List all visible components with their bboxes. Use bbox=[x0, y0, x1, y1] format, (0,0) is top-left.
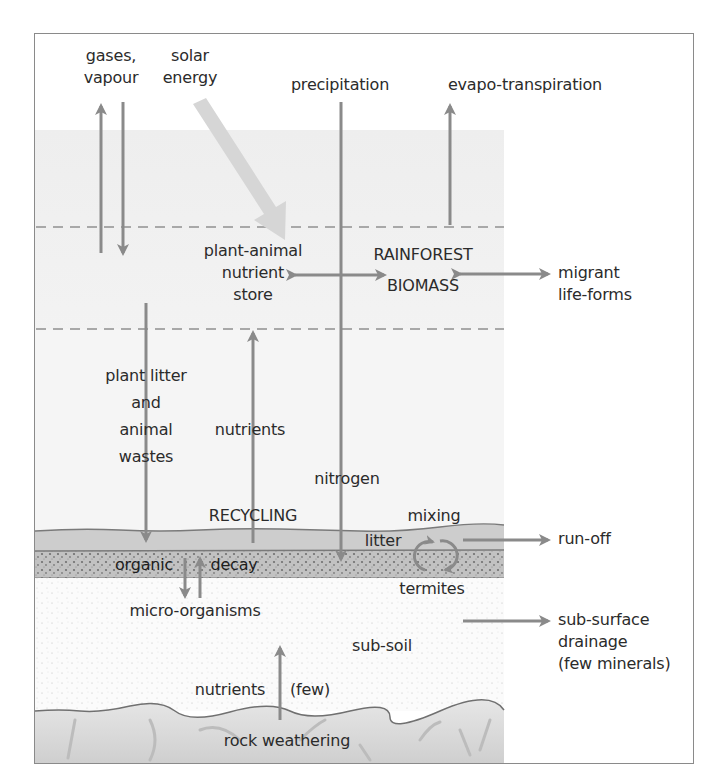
label-few: (few) bbox=[290, 679, 330, 701]
label-plant-animal-store: plant-animal nutrient store bbox=[204, 240, 302, 306]
label-evapotranspiration: evapo-transpiration bbox=[448, 74, 602, 96]
label-litter: litter bbox=[365, 530, 402, 552]
label-organic: organic bbox=[115, 554, 173, 576]
label-migrant-life-forms: migrant life-forms bbox=[558, 262, 632, 306]
label-nitrogen: nitrogen bbox=[314, 468, 379, 490]
label-nutrients-upper: nutrients bbox=[215, 419, 285, 441]
label-nutrients-lower: nutrients bbox=[195, 679, 265, 701]
label-sub-soil: sub-soil bbox=[352, 635, 412, 657]
label-solar-energy: solar energy bbox=[163, 45, 218, 89]
organic-layer bbox=[35, 551, 504, 578]
label-termites: termites bbox=[399, 578, 464, 600]
label-gases-vapour: gases, vapour bbox=[84, 45, 139, 89]
label-sub-surface-drainage: sub-surface drainage (few minerals) bbox=[558, 609, 671, 675]
label-rainforest-biomass: RAINFOREST BIOMASS bbox=[373, 244, 472, 297]
label-recycling: RECYCLING bbox=[209, 505, 297, 527]
label-plant-litter: plant litter and animal wastes bbox=[105, 362, 186, 470]
label-decay: decay bbox=[210, 554, 257, 576]
label-micro-organisms: micro-organisms bbox=[129, 600, 260, 622]
label-precipitation: precipitation bbox=[291, 74, 389, 96]
label-rock-weathering: rock weathering bbox=[224, 730, 350, 752]
label-run-off: run-off bbox=[558, 528, 611, 550]
label-mixing: mixing bbox=[407, 505, 460, 527]
